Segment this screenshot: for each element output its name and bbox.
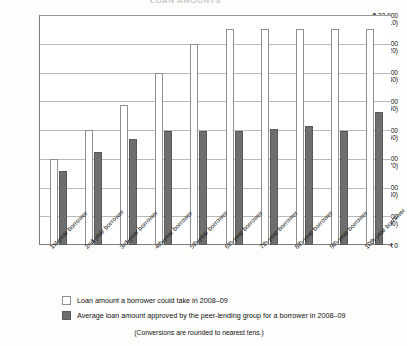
bar-group	[366, 15, 383, 245]
legend-label-average-approved: Average loan amount approved by the peer…	[77, 311, 345, 320]
legend-item-average-approved: Average loan amount approved by the peer…	[62, 311, 345, 320]
chart-legend: Loan amount a borrower could take in 200…	[0, 296, 398, 346]
legend-label-loan-available: Loan amount a borrower could take in 200…	[77, 296, 228, 305]
bar-chart: ₹ 32,000($710)₹ 28,000($620)₹ 24,000($53…	[0, 8, 398, 240]
x-axis-category-labels: 1st-year borrower2nd-year borrower3rd-ye…	[0, 240, 398, 292]
bar-loan-available	[120, 105, 128, 245]
bar-group	[226, 15, 243, 245]
bar-group	[331, 15, 348, 245]
bar-group	[155, 15, 172, 245]
bar-group	[261, 15, 278, 245]
legend-swatch-dark	[62, 311, 71, 320]
bar-loan-available	[85, 130, 93, 245]
legend-item-loan-available: Loan amount a borrower could take in 200…	[62, 296, 228, 305]
bar-loan-available	[50, 159, 58, 245]
bar-group	[296, 15, 313, 245]
bar-group	[190, 15, 207, 245]
bar-group	[85, 15, 102, 245]
chart-title-faint: LOAN AMOUNTS	[150, 0, 221, 5]
bar-series-container	[40, 15, 391, 245]
legend-swatch-light	[62, 296, 71, 305]
bar-group	[50, 15, 67, 245]
legend-note: (Conversions are rounded to nearest tens…	[0, 329, 398, 336]
bar-loan-available	[155, 73, 163, 246]
